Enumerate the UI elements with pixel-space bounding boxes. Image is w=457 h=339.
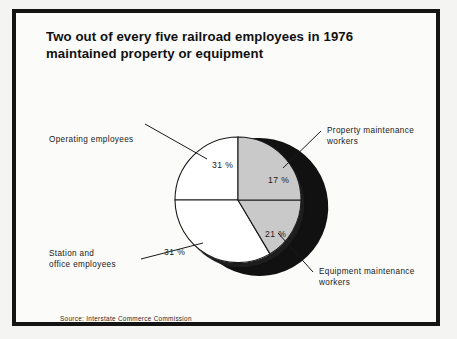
callout-station-line-1: Station and bbox=[49, 249, 116, 260]
percent-label-station: 31 % bbox=[164, 247, 185, 257]
percent-label-equipment: 21 % bbox=[265, 229, 286, 239]
callout-operating-employees: Operating employees bbox=[49, 135, 133, 146]
percent-label-property: 17 % bbox=[268, 175, 289, 185]
callout-equipment-line-1: Equipment maintenance bbox=[319, 267, 415, 278]
callout-property-line-2: workers bbox=[327, 137, 414, 148]
callout-operating-line-1: Operating employees bbox=[49, 135, 133, 146]
source-note: Source: Interstate Commerce Commission bbox=[60, 315, 192, 322]
chart-frame: Two out of every five railroad employees… bbox=[12, 9, 440, 326]
callout-property-line-1: Property maintenance bbox=[327, 126, 414, 137]
callout-property-maintenance: Property maintenance workers bbox=[327, 126, 414, 147]
callout-station-line-2: office employees bbox=[49, 260, 116, 271]
leader-line-operating bbox=[145, 124, 207, 159]
percent-label-operating: 31 % bbox=[212, 160, 233, 170]
callout-equipment-maintenance: Equipment maintenance workers bbox=[319, 267, 415, 288]
callout-station-office: Station and office employees bbox=[49, 249, 116, 270]
figure-canvas: Two out of every five railroad employees… bbox=[0, 0, 457, 339]
callout-equipment-line-2: workers bbox=[319, 278, 415, 289]
